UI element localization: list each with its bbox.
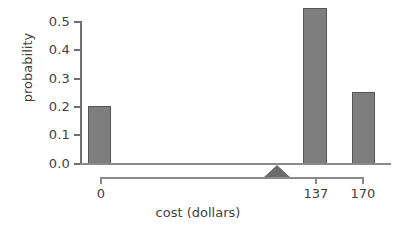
y-axis-tick-4 [74,49,80,51]
x-axis-line [100,177,363,179]
x-axis-tick-label: 170 [333,187,393,200]
probability-bar-chart: 0.0 0.1 0.2 0.3 0.4 0.5 probability 0 13… [0,0,396,230]
y-axis-tick-label: 0.2 [30,100,70,113]
y-axis-tick-label: 0.0 [30,157,70,170]
x-axis-tick-170 [362,177,364,184]
x-axis-tick-0 [100,177,102,184]
x-axis-tick-137 [315,177,317,184]
bar-cost-0 [88,106,111,164]
y-axis-tick-label: 0.3 [30,72,70,85]
y-axis-tick-2 [74,106,80,108]
y-axis-line [80,21,82,164]
y-axis-title: probability [20,13,35,123]
y-axis-tick-label: 0.5 [30,15,70,28]
y-axis-tick-label: 0.4 [30,43,70,56]
y-axis-tick-5 [74,21,80,23]
bar-cost-170 [352,92,375,164]
y-axis-tick-label: 0.1 [30,128,70,141]
x-axis-title: cost (dollars) [0,205,396,220]
x-axis-tick-label: 0 [71,187,131,200]
plot-baseline [80,163,391,165]
y-axis-tick-1 [74,134,80,136]
bar-cost-137 [303,8,327,164]
y-axis-tick-3 [74,78,80,80]
